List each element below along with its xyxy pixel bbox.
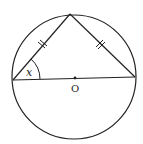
angle-arc	[31, 59, 40, 79]
triangle-right-side	[70, 14, 135, 77]
center-point	[74, 77, 77, 80]
left-side-tick-marks	[38, 40, 47, 48]
geometry-diagram: x O	[0, 0, 143, 144]
center-label-o: O	[71, 83, 79, 94]
angle-label-x: x	[26, 66, 33, 79]
right-side-tick-marks	[96, 40, 105, 49]
